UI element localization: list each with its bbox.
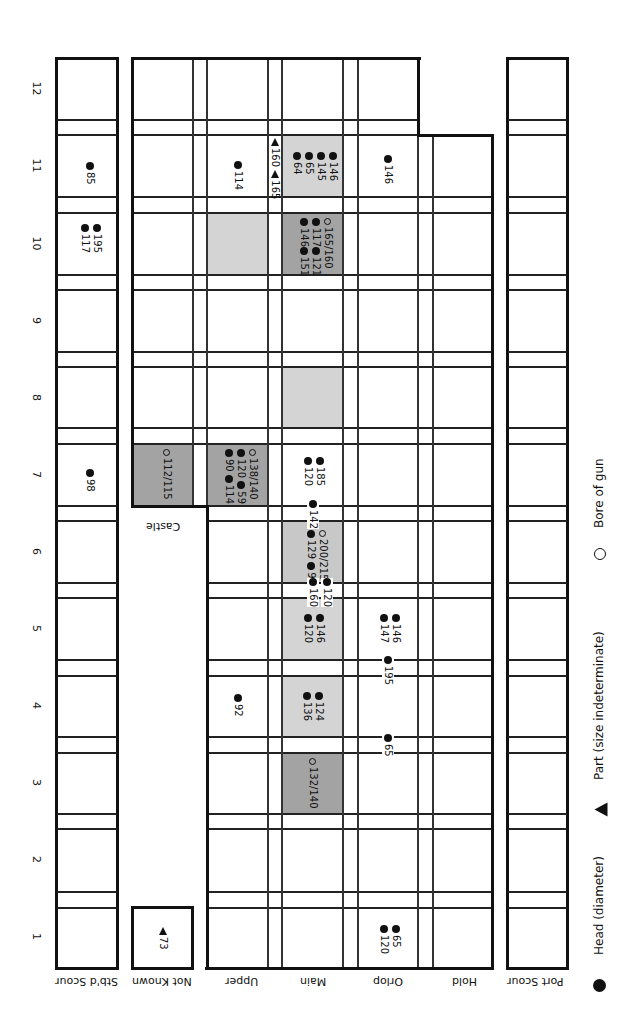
head-icon [312, 218, 320, 226]
find-upper-11: 114 [231, 161, 243, 190]
section-number-5: 5 [30, 619, 43, 639]
head-icon [316, 614, 324, 622]
head-icon [312, 247, 320, 255]
head-icon [303, 692, 311, 700]
head-icon [380, 925, 388, 933]
column-label-main: Main [300, 975, 326, 988]
head-icon [384, 656, 392, 664]
bore-icon [594, 548, 606, 560]
head-icon [317, 152, 325, 160]
find-main-4: 124 136 [300, 692, 324, 721]
section-number-3: 3 [30, 773, 43, 793]
head-icon [307, 530, 315, 538]
part-icon [159, 927, 167, 935]
stbd-scour-box [55, 57, 119, 970]
find-main-line-6-7: 142 [305, 500, 319, 529]
find-notknown-1: 73 [156, 927, 168, 950]
head-icon [304, 614, 312, 622]
head-icon [384, 734, 392, 742]
find-stbd-11: 85 [83, 162, 95, 185]
column-label-orlop: Orlop [373, 975, 403, 988]
section-number-8: 8 [30, 388, 43, 408]
part-icon [595, 803, 608, 817]
legend-bore-label: Bore of gun [592, 458, 606, 528]
part-icon [271, 170, 279, 178]
head-icon [315, 692, 323, 700]
bore-icon [310, 758, 317, 765]
find-orlop-line-4-5: 195 [380, 656, 394, 685]
legend-head-label: Head (diameter) [592, 856, 606, 955]
shade-main-8 [282, 367, 343, 428]
head-icon [237, 449, 245, 457]
find-main-5: 146 120 [301, 614, 325, 643]
castle-label: Castle [146, 520, 180, 533]
head-icon [304, 457, 312, 465]
head-icon [392, 925, 400, 933]
column-label-port-scour: Port Scour [507, 975, 564, 988]
column-label-stbd-scour: Stb'd Scour [55, 975, 118, 988]
find-main-line-5-6: 120 160 [305, 578, 333, 607]
find-orlop-line-3-4: 65 [380, 734, 394, 757]
section-number-4: 4 [30, 696, 43, 716]
find-orlop-11: 146 [381, 155, 393, 184]
head-icon [309, 578, 317, 586]
bore-icon [325, 218, 332, 225]
section-number-10: 10 [30, 234, 43, 254]
head-icon [293, 152, 301, 160]
head-icon [234, 694, 242, 702]
head-icon [380, 614, 388, 622]
find-main-7: 185 120 [301, 457, 325, 486]
legend-part-symbol [594, 799, 608, 818]
column-label-not-known: Not Known [132, 975, 192, 988]
head-icon [307, 562, 315, 570]
find-upper-4: 92 [231, 694, 243, 717]
head-icon [237, 481, 245, 489]
find-stbd-7: 98 [83, 469, 95, 492]
part-icon [271, 138, 279, 146]
bore-icon [250, 449, 257, 456]
section-number-12: 12 [30, 79, 43, 99]
head-icon [86, 162, 94, 170]
legend-part-label: Part (size indeterminate) [592, 631, 606, 780]
column-label-upper: Upper [225, 975, 258, 988]
legend-head-symbol [593, 975, 606, 994]
legend-bore-symbol [594, 543, 606, 562]
find-main-6: 200/215 129 95 [304, 530, 328, 585]
head-icon [316, 457, 324, 465]
shade-upper-10 [207, 213, 268, 275]
head-icon [392, 614, 400, 622]
bore-icon [320, 530, 327, 537]
find-orlop-5: 146 147 [377, 614, 401, 643]
port-scour-box [506, 57, 569, 970]
head-icon [300, 247, 308, 255]
find-stbd-10: 195 117 [78, 224, 102, 253]
head-icon [300, 218, 308, 226]
head-icon [225, 449, 233, 457]
head-icon [86, 469, 94, 477]
head-icon [323, 578, 331, 586]
head-icon [384, 155, 392, 163]
section-number-11: 11 [30, 156, 43, 176]
head-icon [305, 152, 313, 160]
head-icon [81, 224, 89, 232]
head-icon [234, 161, 242, 169]
find-orlop-1: 65 120 [377, 925, 401, 954]
section-number-7: 7 [30, 465, 43, 485]
section-number-9: 9 [30, 311, 43, 331]
find-castle-7: 112/115 [160, 449, 172, 500]
find-main-10: 165/160 117121 146151 [297, 218, 333, 276]
column-label-hold: Hold [452, 975, 477, 988]
head-icon [93, 224, 101, 232]
find-main-11: 146 145 65 64 [290, 152, 338, 181]
find-upper-7: 138/140 120 59 90 114 [222, 449, 258, 504]
bore-icon [164, 449, 171, 456]
head-icon [225, 475, 233, 483]
section-number-6: 6 [30, 542, 43, 562]
section-number-2: 2 [30, 850, 43, 870]
section-number-1: 1 [30, 927, 43, 947]
find-upper-main-gap-11: 160 165 [268, 138, 280, 199]
head-icon [593, 979, 606, 992]
head-icon [329, 152, 337, 160]
head-icon [309, 500, 317, 508]
find-main-3: 132/140 [306, 758, 318, 809]
